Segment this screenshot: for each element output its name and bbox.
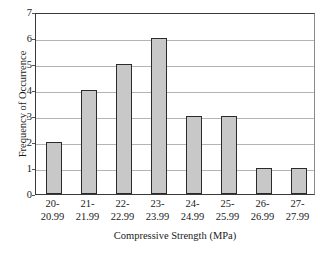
y-tick-label: 3: [22, 112, 32, 122]
x-tick-label-line: 22-: [105, 198, 140, 211]
bar[interactable]: [46, 142, 62, 194]
y-tick-mark: [32, 195, 35, 196]
bar-slot: [176, 14, 211, 194]
bars-layer: [36, 14, 314, 194]
x-tick-label-line: 26.99: [245, 211, 280, 224]
y-tick-mark: [32, 39, 35, 40]
bar-slot: [246, 14, 281, 194]
x-axis-title: Compressive Strength (MPa): [35, 229, 315, 242]
y-axis-tick-labels: 01234567: [22, 0, 32, 255]
y-tick-label: 0: [22, 190, 32, 200]
x-tick-label-line: 22.99: [105, 211, 140, 224]
bar-slot: [36, 14, 71, 194]
y-tick-label: 7: [22, 8, 32, 18]
y-tick-mark: [32, 13, 35, 14]
x-axis-tick-labels: 20-20.9921-21.9922-22.9923-23.9924-24.99…: [35, 198, 315, 228]
bar[interactable]: [256, 168, 272, 194]
y-tick-label: 1: [22, 164, 32, 174]
y-tick-label: 4: [22, 86, 32, 96]
bar-slot: [71, 14, 106, 194]
bar[interactable]: [221, 116, 237, 194]
y-tick-mark: [32, 143, 35, 144]
y-tick-mark: [32, 169, 35, 170]
x-tick-label: 24-24.99: [175, 198, 210, 223]
bar-slot: [106, 14, 141, 194]
y-tick-label: 5: [22, 60, 32, 70]
y-tick-mark: [32, 65, 35, 66]
x-tick-label-line: 24.99: [175, 211, 210, 224]
bar[interactable]: [291, 168, 307, 194]
x-tick-label: 26-26.99: [245, 198, 280, 223]
x-tick-label: 25-25.99: [210, 198, 245, 223]
x-tick-label-line: 20-: [35, 198, 70, 211]
bar[interactable]: [151, 38, 167, 194]
bar[interactable]: [116, 64, 132, 194]
y-tick-mark: [32, 117, 35, 118]
x-tick-label-line: 21-: [70, 198, 105, 211]
x-tick-label-line: 26-: [245, 198, 280, 211]
bar-slot: [211, 14, 246, 194]
bar[interactable]: [186, 116, 202, 194]
x-tick-label: 21-21.99: [70, 198, 105, 223]
x-tick-label-line: 23.99: [140, 211, 175, 224]
y-tick-label: 2: [22, 138, 32, 148]
x-tick-label-line: 25.99: [210, 211, 245, 224]
x-tick-label: 22-22.99: [105, 198, 140, 223]
x-tick-label: 20-20.99: [35, 198, 70, 223]
x-tick-label-line: 21.99: [70, 211, 105, 224]
x-tick-label-line: 27.99: [280, 211, 315, 224]
histogram-chart: Frequency of Occurrence 01234567 20-20.9…: [0, 0, 328, 255]
x-tick-label-line: 23-: [140, 198, 175, 211]
plot-area: [35, 13, 315, 195]
y-tick-mark: [32, 91, 35, 92]
x-tick-label: 27-27.99: [280, 198, 315, 223]
x-tick-label-line: 25-: [210, 198, 245, 211]
x-tick-label-line: 24-: [175, 198, 210, 211]
x-tick-label: 23-23.99: [140, 198, 175, 223]
bar-slot: [141, 14, 176, 194]
bar-slot: [281, 14, 316, 194]
x-tick-label-line: 20.99: [35, 211, 70, 224]
bar[interactable]: [81, 90, 97, 194]
x-tick-label-line: 27-: [280, 198, 315, 211]
y-tick-label: 6: [22, 34, 32, 44]
